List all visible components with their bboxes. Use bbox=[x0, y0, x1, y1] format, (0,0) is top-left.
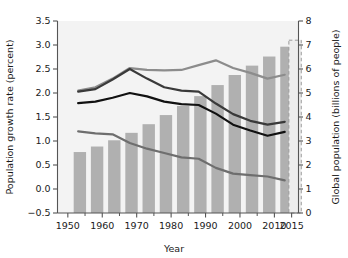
population-bar bbox=[160, 115, 172, 213]
x-tick-label: 2000 bbox=[228, 220, 252, 231]
chart-canvas: 19501960197019801990200020102015 −0.50.0… bbox=[0, 0, 348, 258]
y-axis-left-title: Population growth rate (percent) bbox=[4, 39, 15, 194]
population-bar bbox=[177, 106, 189, 213]
population-bar bbox=[74, 152, 86, 213]
y-left-tick-label: 2.5 bbox=[35, 63, 50, 74]
y-left-tick-label: 2.0 bbox=[35, 87, 50, 98]
y-right-tick-label: 4 bbox=[306, 111, 312, 122]
x-tick-label: 1990 bbox=[193, 220, 217, 231]
x-tick-label: 1980 bbox=[159, 220, 183, 231]
y-right-tick-label: 3 bbox=[306, 135, 312, 146]
x-tick-label: 1970 bbox=[125, 220, 149, 231]
x-axis-title: Year bbox=[163, 243, 184, 254]
y-right-tick-label: 8 bbox=[306, 15, 312, 26]
population-bar bbox=[229, 75, 241, 213]
y-left-tick-label: 1.5 bbox=[35, 111, 50, 122]
y-right-tick-label: 5 bbox=[306, 87, 312, 98]
y-right-tick-label: 2 bbox=[306, 159, 312, 170]
population-bar bbox=[143, 124, 155, 213]
y-left-tick-label: 0.0 bbox=[35, 183, 50, 194]
population-bar bbox=[194, 96, 206, 213]
y-right-tick-label: 7 bbox=[306, 39, 312, 50]
x-tick-label: 1950 bbox=[56, 220, 80, 231]
population-bar bbox=[246, 66, 258, 213]
y-right-tick-label: 6 bbox=[306, 63, 312, 74]
x-tick-label: 1960 bbox=[90, 220, 114, 231]
y-left-tick-label: 0.5 bbox=[35, 159, 50, 170]
x-tick-label: 2015 bbox=[280, 220, 304, 231]
y-right-tick-label: 0 bbox=[306, 207, 312, 218]
projection-bar bbox=[289, 40, 301, 213]
y-axis-right-title: Global population (billions of people) bbox=[330, 29, 341, 204]
y-right-tick-label: 1 bbox=[306, 183, 312, 194]
y-left-tick-label: 3.5 bbox=[35, 15, 50, 26]
projected-population-bar bbox=[289, 40, 301, 213]
population-bar bbox=[108, 140, 120, 213]
y-left-tick-label: −0.5 bbox=[27, 207, 50, 218]
population-bar bbox=[91, 147, 103, 213]
y-left-tick-label: 3.0 bbox=[35, 39, 50, 50]
population-growth-chart: 19501960197019801990200020102015 −0.50.0… bbox=[0, 0, 348, 258]
y-left-tick-label: 1.0 bbox=[35, 135, 50, 146]
